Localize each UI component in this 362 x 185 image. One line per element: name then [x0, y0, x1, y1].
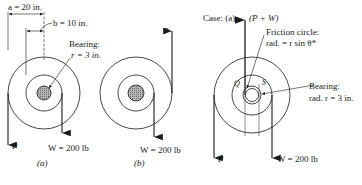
dimension-a-label: a = 20 in.: [8, 3, 42, 12]
panel-b: [100, 31, 172, 137]
bearing-radius-label: rad. r = 3 in.: [309, 94, 354, 103]
caption-b: (b): [134, 159, 145, 168]
point-q-label: Q: [234, 80, 240, 88]
pulley-friction-figure: a = 20 in. b = 10 in. Bearing: r = 3 in.…: [0, 0, 362, 185]
bearing-hub: [37, 86, 51, 100]
point-s-label: S: [262, 79, 266, 87]
resultant-force-label: (P + W): [249, 14, 278, 23]
force-p-label: P: [163, 27, 169, 36]
dim-b-leader: [40, 23, 52, 31]
friction-circle: [246, 89, 259, 102]
friction-circle-title: Friction circle:: [266, 28, 319, 37]
bearing-hub: [128, 85, 144, 101]
force-p-label: P: [218, 155, 224, 164]
caption-a: (a): [37, 159, 48, 168]
force-w-label: W = 200 lb: [140, 146, 181, 155]
dimension-b-label: b = 10 in.: [53, 19, 88, 28]
bearing-radius-label: r = 3 in.: [71, 51, 101, 60]
friction-circle-radius: rad. = r sin θ*: [266, 39, 316, 48]
panel-a: [8, 12, 80, 145]
force-p-label: P: [12, 142, 18, 151]
force-w-label: W = 200 lb: [48, 144, 89, 153]
bearing-title-label: Bearing:: [69, 40, 100, 49]
bearing-title-label: Bearing:: [309, 82, 340, 91]
case-label: Case: (a): [203, 14, 235, 23]
outer-pulley-circle: [214, 57, 290, 133]
force-w-label: W = 200 lb: [277, 155, 318, 164]
